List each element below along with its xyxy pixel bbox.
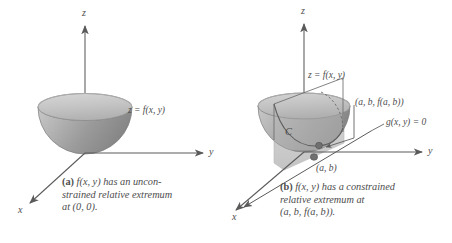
panel-a-caption: (a) f(x, y) has an uncon- strained relat… [62, 176, 182, 214]
panel-b-caption-text: f(x, y) has a constrained relative extre… [280, 181, 395, 217]
curve-label-C: C [285, 127, 292, 138]
y-axis-label: y [428, 146, 432, 156]
panel-a-caption-prefix: (a) [62, 176, 74, 187]
point-in-plane-marker [310, 154, 317, 161]
constraint-label-leader [371, 124, 384, 131]
figure-lagrange-multipliers: z y x z = f(x, y) (a) f(x, y) has an unc… [0, 0, 452, 243]
z-axis-label: z [82, 8, 86, 18]
y-axis-label: y [209, 147, 213, 157]
surface-equation-label: z = f(x, y) [308, 71, 345, 81]
panel-b-constrained-extremum: z y x z = f(x, y) (a, b, f(a, b)) g(x, y… [226, 0, 452, 243]
point-on-surface-marker [316, 142, 323, 148]
panel-a-unconstrained-extremum: z y x z = f(x, y) (a) f(x, y) has an unc… [0, 0, 226, 243]
surface-equation-label: z = f(x, y) [128, 106, 165, 116]
point-3d-label: (a, b, f(a, b)) [355, 98, 404, 108]
x-axis-label: x [18, 205, 22, 215]
z-axis-label: z [301, 6, 305, 16]
panel-b-caption-prefix: (b) [280, 181, 293, 192]
panel-a-caption-text: f(x, y) has an uncon- strained relative … [62, 176, 172, 212]
constraint-equation-label: g(x, y) = 0 [386, 118, 426, 128]
x-axis-label: x [232, 212, 236, 222]
point-2d-label: (a, b) [316, 164, 337, 174]
panel-b-caption: (b) f(x, y) has a constrained relative e… [280, 181, 412, 219]
